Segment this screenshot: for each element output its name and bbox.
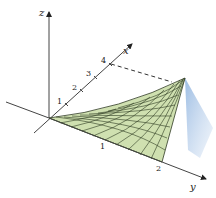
x-tick-1: 1 [57, 97, 62, 106]
x-axis-label: x [123, 45, 129, 56]
x-tick-3: 3 [86, 69, 91, 78]
z-axis-label: z [38, 7, 45, 18]
dashed-guide-line [111, 64, 172, 82]
y-tick-1: 1 [100, 142, 105, 151]
surface-plot-figure: z x 1 2 3 4 [0, 0, 216, 198]
surface-side-face [185, 78, 213, 158]
y-tick-2: 2 [156, 164, 161, 173]
y-axis-label: y [189, 181, 196, 192]
y-axis-negative [6, 102, 49, 118]
x-tick-2: 2 [72, 83, 77, 92]
surface-mesh [49, 78, 185, 162]
y-axis [162, 162, 206, 179]
x-tick-4: 4 [101, 56, 106, 65]
